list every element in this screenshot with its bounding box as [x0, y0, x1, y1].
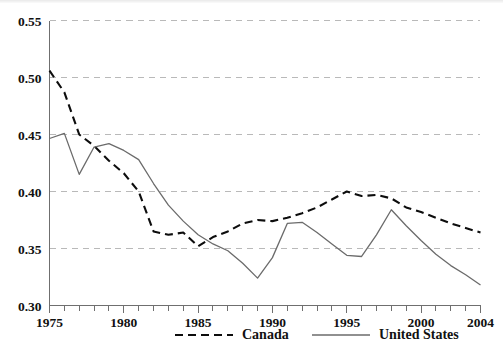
y-tick-label: 0.30 [18, 299, 42, 314]
y-tick-label: 0.55 [18, 14, 42, 29]
y-tick-label: 0.45 [18, 128, 42, 143]
axes-group [50, 21, 481, 306]
x-tick-label: 1975 [36, 315, 63, 330]
y-tick-labels-group: 0.300.350.400.450.500.55 [18, 14, 42, 314]
y-tick-label: 0.50 [18, 71, 42, 86]
x-tick-label: 2004 [467, 315, 494, 330]
window-top-edge [0, 0, 503, 3]
y-tick-label: 0.40 [18, 185, 42, 200]
line-chart: 0.300.350.400.450.500.55 197519801985199… [0, 0, 503, 351]
chart-container: 0.300.350.400.450.500.55 197519801985199… [0, 0, 503, 351]
legend-group: CanadaUnited States [175, 327, 459, 342]
series-line-canada [50, 71, 481, 247]
series-group [50, 71, 481, 285]
x-tickmarks-group [50, 306, 481, 313]
y-tick-label: 0.35 [18, 242, 42, 257]
gridlines-group [50, 21, 481, 249]
series-line-united-states [50, 133, 481, 285]
legend-label-canada: Canada [242, 327, 289, 342]
x-tick-label: 1995 [333, 315, 360, 330]
x-tick-label: 1985 [185, 315, 212, 330]
legend-label-united-states: United States [379, 327, 459, 342]
x-tick-label: 1980 [110, 315, 137, 330]
